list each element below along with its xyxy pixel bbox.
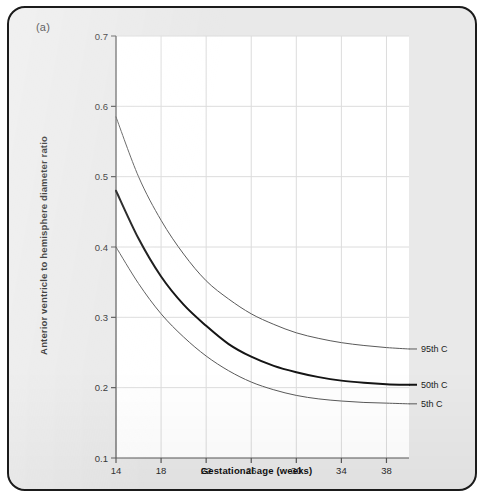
curve-label: 5th C <box>421 399 443 409</box>
svg-text:0.3: 0.3 <box>95 312 108 323</box>
chart-area: 0.10.20.30.40.50.60.714182226303438 95th… <box>9 8 477 491</box>
svg-text:0.6: 0.6 <box>95 101 108 112</box>
svg-text:0.2: 0.2 <box>95 382 108 393</box>
figure-panel: (a) 0.10.20.30.40.50.60.714182226303438 … <box>7 6 477 491</box>
svg-text:0.7: 0.7 <box>95 31 108 42</box>
curve-labels: 95th C50th C5th C <box>409 344 448 409</box>
curve-label: 50th C <box>421 380 448 390</box>
curve-label: 95th C <box>421 344 448 354</box>
svg-text:0.5: 0.5 <box>95 171 108 182</box>
chart-plot-svg: 0.10.20.30.40.50.60.714182226303438 95th… <box>9 8 477 491</box>
svg-text:0.4: 0.4 <box>95 242 108 253</box>
y-axis-title: Anterior ventricle to hemisphere diamete… <box>38 116 49 376</box>
x-axis-title: Gestational age (weeks) <box>109 465 404 476</box>
svg-text:0.1: 0.1 <box>95 453 108 464</box>
